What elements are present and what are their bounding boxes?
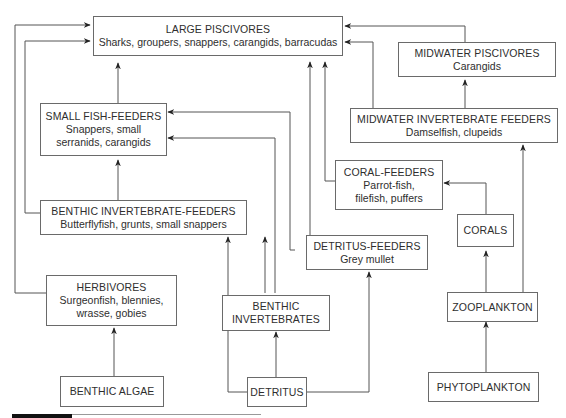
node-phytoplankton: PHYTOPLANKTON xyxy=(428,372,539,402)
node-title: BENTHIC INVERTEBRATE-FEEDERS xyxy=(51,205,235,218)
edge-herbivores-large-piscivores xyxy=(15,25,90,293)
node-subtitle: Surgeonfish, blennies, wrasse, gobies xyxy=(47,294,176,320)
node-title: PHYTOPLANKTON xyxy=(437,381,531,394)
node-title: BENTHIC ALGAE xyxy=(70,385,155,398)
node-subtitle: Parrot-fish, filefish, puffers xyxy=(336,179,442,205)
node-midwater-piscivores: MIDWATER PISCIVORES Carangids xyxy=(398,42,556,77)
edge-corals-coral-feeders xyxy=(444,183,486,214)
node-subtitle: Carangids xyxy=(453,60,501,73)
node-benthic-invertebrates: BENTHIC INVERTEBRATES xyxy=(222,295,330,331)
node-subtitle: Damselfish, clupeids xyxy=(406,126,502,139)
node-title: BENTHIC INVERTEBRATES xyxy=(223,300,329,326)
node-title: CORALS xyxy=(464,224,508,237)
node-title: MIDWATER INVERTEBRATE FEEDERS xyxy=(357,113,551,126)
node-corals: CORALS xyxy=(457,214,514,247)
node-herbivores: HERBIVORES Surgeonfish, blennies, wrasse… xyxy=(46,275,177,326)
node-title: LARGE PISCIVORES xyxy=(166,23,270,36)
node-title: DETRITUS xyxy=(250,386,303,399)
node-small-fish-feeders: SMALL FISH-FEEDERS Snappers, small serra… xyxy=(40,103,167,156)
node-benthic-invertebrate-feeders: BENTHIC INVERTEBRATE-FEEDERS Butterflyfi… xyxy=(40,200,247,235)
node-benthic-algae: BENTHIC ALGAE xyxy=(60,376,164,407)
node-zooplankton: ZOOPLANKTON xyxy=(447,292,538,322)
node-detritus: DETRITUS xyxy=(247,377,307,407)
node-subtitle: Grey mullet xyxy=(340,253,394,266)
edge-detritus-detritus-feeders xyxy=(304,272,369,392)
edge-midwater-invert-feeders-large-piscivores xyxy=(345,42,373,108)
caption-bar-rule xyxy=(72,414,261,415)
node-coral-feeders: CORAL-FEEDERS Parrot-fish, filefish, puf… xyxy=(335,160,443,210)
node-title: ZOOPLANKTON xyxy=(452,301,532,314)
node-detritus-feeders: DETRITUS-FEEDERS Grey mullet xyxy=(306,235,428,270)
node-large-piscivores: LARGE PISCIVORES Sharks, groupers, snapp… xyxy=(93,16,343,56)
node-title: CORAL-FEEDERS xyxy=(344,166,435,179)
node-title: HERBIVORES xyxy=(77,281,147,294)
node-title: SMALL FISH-FEEDERS xyxy=(46,110,162,123)
node-title: MIDWATER PISCIVORES xyxy=(415,47,540,60)
caption-bar-block xyxy=(12,414,72,418)
edge-midwater-piscivores-large-piscivores xyxy=(345,26,465,42)
node-title: DETRITUS-FEEDERS xyxy=(313,240,420,253)
node-subtitle: Sharks, groupers, snappers, carangids, b… xyxy=(99,36,338,49)
node-subtitle: Snappers, small serranids, carangids xyxy=(41,123,166,149)
node-midwater-invertebrate-feeders: MIDWATER INVERTEBRATE FEEDERS Damselfish… xyxy=(350,108,558,143)
node-subtitle: Butterflyfish, grunts, small snappers xyxy=(60,218,226,231)
food-web-diagram: LARGE PISCIVORES Sharks, groupers, snapp… xyxy=(0,0,566,418)
